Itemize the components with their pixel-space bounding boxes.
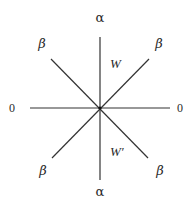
label-lower-right-beta: β	[155, 163, 164, 178]
label-right-zero: 0	[177, 101, 183, 115]
label-top-alpha: α	[96, 10, 105, 25]
center-point	[98, 106, 101, 109]
label-upper-left-beta: β	[37, 36, 46, 51]
label-region-w: W	[110, 56, 122, 71]
label-upper-right-beta: β	[154, 36, 163, 51]
label-region-w-prime: W′	[110, 144, 124, 159]
ray-diagram: α α 0 0 β β β β W W′	[0, 0, 192, 203]
label-lower-left-beta: β	[38, 163, 47, 178]
label-left-zero: 0	[9, 101, 15, 115]
label-bottom-alpha: α	[96, 184, 105, 199]
